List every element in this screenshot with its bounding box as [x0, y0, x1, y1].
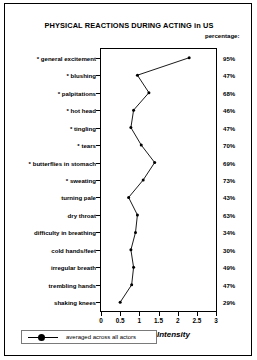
- x-axis-tick-label: 1.5: [149, 317, 169, 324]
- x-axis-tick-label: 2: [168, 317, 188, 324]
- chart-frame: PHYSICAL REACTIONS DURING ACTING in US p…: [4, 3, 252, 356]
- data-series-line: [5, 40, 253, 316]
- x-axis-tick-label: 0: [91, 317, 111, 324]
- percentage-column-header: percentage:: [205, 32, 240, 39]
- x-axis-tick-label: 1: [129, 317, 149, 324]
- chart-title: PHYSICAL REACTIONS DURING ACTING in US: [5, 21, 253, 30]
- x-axis-tick-label: 3: [206, 317, 226, 324]
- x-axis-tick-label: 0.5: [110, 317, 130, 324]
- legend-marker-icon: [38, 334, 45, 341]
- x-axis-title: Intensity: [157, 330, 190, 339]
- x-axis-tick-label: 2.5: [187, 317, 207, 324]
- legend-label: averaged across all actors: [66, 334, 136, 340]
- legend: averaged across all actors: [21, 330, 157, 344]
- plot-area: * general excitement* blushing* palpitat…: [5, 40, 253, 316]
